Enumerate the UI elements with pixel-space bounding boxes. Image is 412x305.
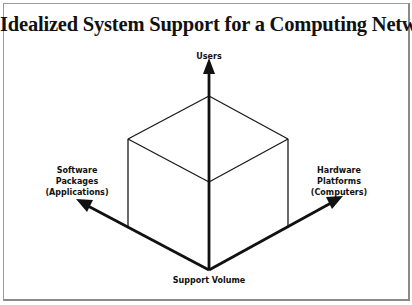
software-label-line: Software (37, 165, 117, 176)
software-label-line: Packages (37, 176, 117, 187)
support-volume-label: Support Volume (159, 275, 259, 286)
software-label-line: (Applications) (37, 187, 117, 198)
axes (88, 72, 331, 270)
hardware-label: Hardware Platforms (Computers) (299, 165, 379, 198)
software-label: Software Packages (Applications) (37, 165, 117, 198)
arrowhead-left-icon (76, 199, 93, 212)
hardware-label-line: Platforms (299, 176, 379, 187)
hardware-label-line: Hardware (299, 165, 379, 176)
cube-axes-diagram (0, 0, 412, 305)
users-label: Users (189, 51, 229, 62)
software-axis (88, 206, 209, 270)
hardware-axis (209, 203, 331, 270)
hardware-label-line: (Computers) (299, 187, 379, 198)
